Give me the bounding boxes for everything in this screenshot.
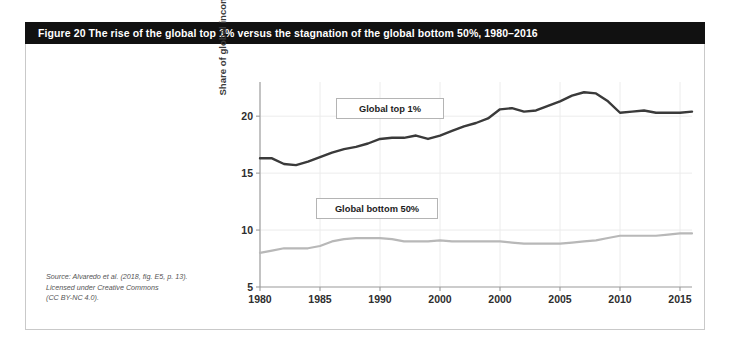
svg-text:1985: 1985	[308, 293, 332, 305]
svg-text:15: 15	[241, 167, 253, 179]
source-line-3: (CC BY-NC 4.0).	[46, 293, 211, 304]
svg-text:5: 5	[247, 281, 253, 293]
source-note: Source: Alvaredo et al. (2018, fig. E5, …	[46, 272, 211, 304]
svg-text:1990: 1990	[368, 293, 392, 305]
svg-text:20: 20	[241, 110, 253, 122]
source-line-1: Source: Alvaredo et al. (2018, fig. E5, …	[46, 272, 211, 283]
svg-text:2015: 2015	[668, 293, 692, 305]
legend-top-text: Global top 1%	[359, 104, 421, 114]
figure-container: Figure 20 The rise of the global top 1% …	[0, 0, 729, 360]
svg-text:10: 10	[241, 224, 253, 236]
legend-bottom-text: Global bottom 50%	[335, 204, 419, 214]
legend-label-top-1-percent: Global top 1%	[336, 98, 444, 119]
x-axis-ticks: 19801985199020002000200520102015	[248, 287, 692, 305]
source-line-2: Licensed under Creative Commons	[46, 283, 211, 294]
figure-title-bar: Figure 20 The rise of the global top 1% …	[25, 22, 705, 44]
svg-text:2005: 2005	[548, 293, 572, 305]
svg-text:2000: 2000	[428, 293, 452, 305]
chart-area: Share of global income (%) 5101520 19801…	[218, 76, 698, 311]
legend-label-bottom-50-percent: Global bottom 50%	[316, 198, 438, 219]
figure-title: Figure 20 The rise of the global top 1% …	[25, 27, 538, 39]
line-chart-plot: 5101520 19801985199020002000200520102015	[218, 76, 698, 311]
svg-text:2000: 2000	[488, 293, 512, 305]
svg-text:1980: 1980	[248, 293, 272, 305]
y-axis-ticks: 5101520	[241, 110, 260, 293]
svg-text:2010: 2010	[608, 293, 632, 305]
